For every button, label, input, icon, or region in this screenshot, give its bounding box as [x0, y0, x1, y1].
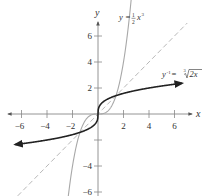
- chart: −6−4−2246 −6−4246 x y y = 1 2 x 3 y -1 =…: [0, 0, 204, 196]
- x-tick-label: 4: [147, 121, 152, 131]
- svg-text:1: 1: [132, 12, 135, 18]
- x-ticks: −6−4−2246: [15, 110, 178, 131]
- svg-text:=: =: [171, 69, 177, 79]
- curves: [15, 0, 187, 196]
- x-tick-label: 2: [121, 121, 126, 131]
- svg-text:2: 2: [132, 19, 135, 25]
- x-tick-label: 6: [172, 121, 177, 131]
- svg-text:y =: y =: [118, 12, 131, 22]
- y-tick-label: 4: [88, 57, 93, 67]
- y-tick-label: −6: [82, 187, 92, 196]
- x-tick-label: −4: [40, 121, 50, 131]
- y-tick-label: 6: [88, 31, 93, 41]
- x-axis-label: x: [195, 108, 201, 119]
- x-tick-label: −6: [15, 121, 25, 131]
- y-tick-label: −4: [82, 161, 92, 171]
- cube-root-curve-label: y -1 = 3 2x: [161, 68, 202, 79]
- y-axis-label: y: [94, 7, 100, 18]
- svg-text:x: x: [136, 12, 141, 22]
- svg-text:3: 3: [184, 68, 187, 73]
- cubic-curve-label: y = 1 2 x 3: [118, 12, 145, 25]
- y-tick-label: 2: [88, 83, 93, 93]
- x-tick-label: −2: [66, 121, 76, 131]
- svg-text:2x: 2x: [190, 69, 198, 79]
- curve-labels: y = 1 2 x 3 y -1 = 3 2x: [118, 12, 202, 79]
- identity-line-dashed: [18, 23, 188, 196]
- svg-text:3: 3: [142, 12, 145, 17]
- svg-text:y: y: [161, 69, 166, 79]
